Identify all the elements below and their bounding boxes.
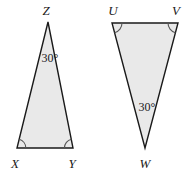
triangle-xyz: Z X Y 30° <box>10 3 77 171</box>
angle-measure-w: 30° <box>139 100 156 114</box>
vertex-label-z: Z <box>42 3 50 18</box>
vertex-label-y: Y <box>68 156 77 171</box>
geometry-canvas: Z X Y 30° U V W 30° <box>0 0 195 175</box>
geometry-figure: Z X Y 30° U V W 30° <box>0 0 195 175</box>
vertex-label-x: X <box>10 156 20 171</box>
triangle-uvw-shape <box>112 23 178 148</box>
triangle-uvw: U V W 30° <box>108 3 182 171</box>
vertex-label-v: V <box>172 3 182 18</box>
triangle-xyz-shape <box>17 22 73 148</box>
angle-measure-z: 30° <box>42 51 59 65</box>
vertex-label-w: W <box>140 156 152 171</box>
vertex-label-u: U <box>108 3 119 18</box>
